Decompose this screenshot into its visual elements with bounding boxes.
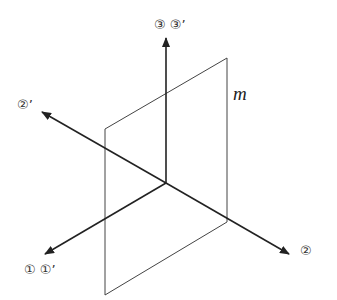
axis-2-label: ②: [300, 244, 312, 257]
axis-1-label: ① ①’: [24, 263, 56, 276]
axis-2-prime-label: ②’: [17, 98, 33, 111]
axis-3-label: ③ ③’: [154, 18, 186, 31]
axis-2-prime-line: [42, 112, 166, 183]
diagram-svg: [0, 0, 337, 300]
plane-m-label: m: [233, 84, 247, 103]
diagram-canvas: ③ ③’ ② ②’ ① ①’ m: [0, 0, 337, 300]
